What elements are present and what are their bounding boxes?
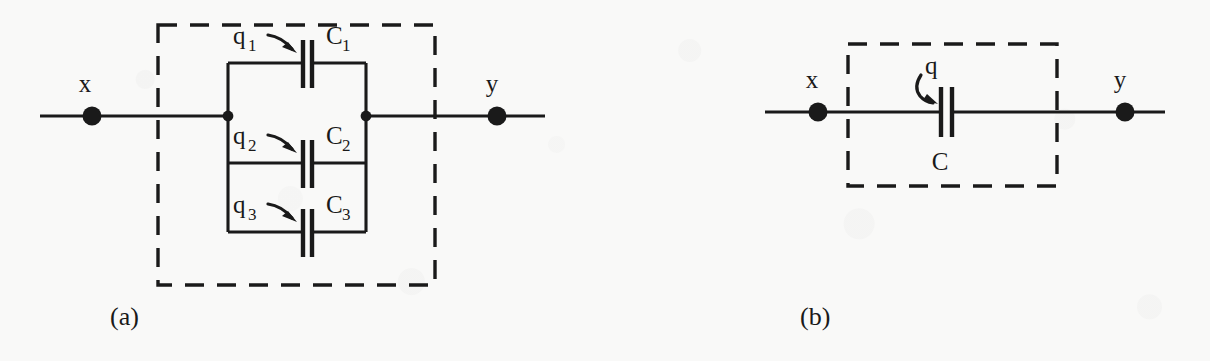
panel-b: q C x y (b) (765, 44, 1165, 331)
panel-a: q 1 C 1 q 2 C 2 (40, 22, 545, 331)
panel-b-terminal-label-x: x (806, 66, 819, 93)
branch-3-capacitor-subscript: 3 (342, 205, 351, 224)
panel-a-terminal-label-x: x (79, 70, 92, 97)
branch-2-capacitor-label: C (326, 122, 343, 149)
circuit-diagram-svg: q 1 C 1 q 2 C 2 (0, 0, 1210, 361)
branch-3-charge-arrow-head (282, 211, 297, 222)
panel-a-terminal-label-y: y (486, 70, 499, 97)
panel-b-terminal-dot-x (809, 103, 828, 122)
branch-3-capacitor-label: C (326, 191, 343, 218)
branch-2-charge-subscript: 2 (248, 136, 257, 155)
branch-1-capacitor-subscript: 1 (342, 36, 351, 55)
panel-a-caption: (a) (110, 302, 139, 331)
branch-2-charge-arrow-head (282, 142, 297, 153)
panel-b-caption: (b) (800, 302, 830, 331)
panel-b-charge-label: q (925, 52, 938, 79)
panel-a-terminal-dot-y (488, 107, 507, 126)
figure-canvas: q 1 C 1 q 2 C 2 (0, 0, 1210, 361)
panel-b-terminal-label-y: y (1114, 66, 1127, 93)
branch-1-charge-subscript: 1 (248, 36, 257, 55)
branch-1-capacitor-label: C (326, 22, 343, 49)
branch-1-charge-arrow-head (282, 42, 297, 53)
panel-b-capacitor-label: C (932, 148, 949, 175)
branch-2-charge-label: q (233, 122, 246, 149)
branch-2-capacitor-subscript: 2 (342, 136, 351, 155)
panel-a-terminal-dot-x (83, 107, 102, 126)
panel-b-terminal-dot-y (1116, 103, 1135, 122)
panel-a-branch-1: q 1 C 1 (228, 22, 366, 88)
branch-3-charge-subscript: 3 (248, 205, 257, 224)
panel-a-branch-2: q 2 C 2 (228, 122, 366, 188)
branch-1-charge-label: q (233, 22, 246, 49)
panel-a-branch-3: q 3 C 3 (228, 191, 366, 257)
branch-3-charge-label: q (233, 191, 246, 218)
